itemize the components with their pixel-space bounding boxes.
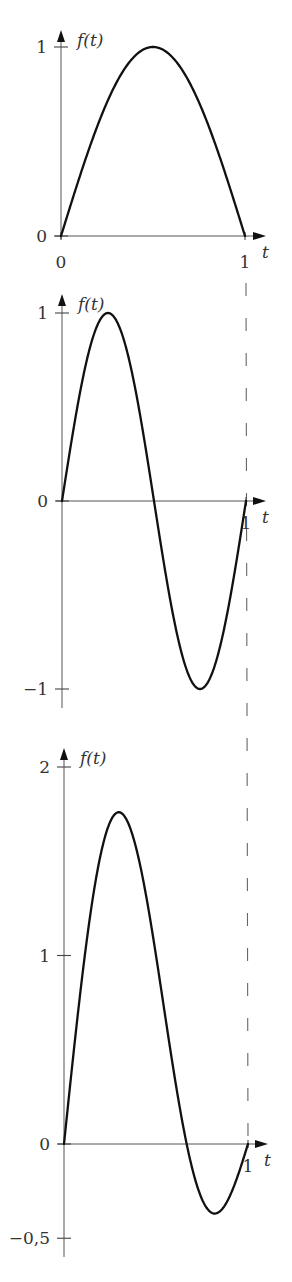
y-axis-arrow-icon bbox=[60, 748, 68, 760]
x-tick-label: 0 bbox=[56, 252, 67, 272]
x-axis-arrow-icon bbox=[253, 497, 266, 505]
x-tick-label: 1 bbox=[240, 252, 251, 272]
y-axis-label: f(t) bbox=[75, 30, 103, 50]
chart-half-sine: 0101f(t)t bbox=[36, 30, 269, 272]
figure-canvas: 0101f(t)t −1011f(t)t −0,50121f(t)t bbox=[0, 0, 292, 1282]
y-tick-label: 1 bbox=[37, 303, 48, 323]
y-tick-label: 2 bbox=[39, 757, 50, 777]
x-axis-label: t bbox=[262, 507, 269, 527]
chart-sum-of-sines: −0,50121f(t)t bbox=[9, 748, 271, 1257]
y-axis-label: f(t) bbox=[78, 748, 106, 768]
y-tick-label: 0 bbox=[37, 491, 48, 511]
function-curve bbox=[64, 812, 248, 1213]
chart-full-sine: −1011f(t)t bbox=[23, 294, 269, 708]
x-axis-label: t bbox=[262, 242, 269, 262]
dashed-guide-line-t1 bbox=[246, 283, 248, 1144]
x-axis-label: t bbox=[264, 1150, 271, 1170]
y-tick-label: 1 bbox=[39, 946, 50, 966]
function-curve bbox=[61, 47, 245, 236]
x-axis-arrow-icon bbox=[253, 232, 266, 240]
x-axis-arrow-icon bbox=[255, 1140, 268, 1148]
y-axis-arrow-icon bbox=[57, 30, 65, 42]
y-tick-label: 0 bbox=[36, 226, 47, 246]
y-tick-label: 1 bbox=[36, 37, 47, 57]
y-tick-label: −0,5 bbox=[9, 1228, 50, 1248]
y-tick-label: −1 bbox=[23, 679, 48, 699]
y-axis-arrow-icon bbox=[58, 294, 66, 306]
y-tick-label: 0 bbox=[39, 1134, 50, 1154]
y-axis-label: f(t) bbox=[76, 294, 104, 314]
